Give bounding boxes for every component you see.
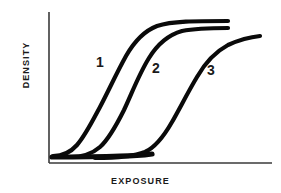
curve-3-label: 3 [207, 63, 215, 77]
curve-1-label: 1 [96, 55, 104, 69]
curve-series-1 [53, 21, 228, 156]
chart-plot-area [0, 0, 281, 193]
curve-2-label: 2 [152, 61, 160, 75]
y-axis-label: DENSITY [21, 25, 31, 105]
characteristic-curve-figure: 1 2 3 DENSITY EXPOSURE [0, 0, 281, 193]
curve-series-2 [70, 28, 228, 157]
curve-series-3 [95, 36, 260, 158]
x-axis-label: EXPOSURE [0, 176, 281, 186]
